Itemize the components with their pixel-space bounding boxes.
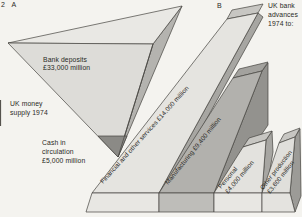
- panel-b-title: UK bank advances 1974 to:: [268, 2, 298, 27]
- bank-deposits-line1: Bank deposits: [43, 56, 87, 64]
- cash-line2: circulation: [42, 148, 74, 155]
- panel-b-title-line3: 1974 to:: [268, 20, 293, 27]
- pyramid-top-face: [8, 6, 182, 44]
- base-front-financial: [86, 193, 159, 212]
- panel-a-label: A: [12, 1, 17, 8]
- figure-canvas: 2 A B UK bank advances 1974 to: Bank dep…: [0, 0, 302, 217]
- figure-number: 2: [1, 1, 5, 8]
- panel-b-title-line2: advances: [268, 11, 298, 18]
- base-front-other-production: [262, 193, 295, 212]
- panel-b-title-line1: UK bank: [268, 2, 295, 9]
- base-front-manufacturing: [159, 193, 214, 212]
- money-supply-line2: supply 1974: [10, 109, 48, 117]
- base-front-personal: [214, 193, 262, 212]
- textbook-figure: 2 A B UK bank advances 1974 to: Bank dep…: [0, 0, 302, 217]
- bank-deposits-label: Bank deposits £33,000 million: [43, 56, 90, 72]
- cash-line3: £5,000 million: [42, 157, 85, 164]
- panel-b-label: B: [217, 2, 222, 9]
- money-supply-label: UK money supply 1974: [10, 100, 48, 117]
- money-supply-line1: UK money: [10, 100, 43, 108]
- cash-line1: Cash in: [42, 139, 66, 146]
- cash-circulation-label: Cash in circulation £5,000 million: [42, 139, 85, 164]
- bank-deposits-line2: £33,000 million: [43, 64, 90, 71]
